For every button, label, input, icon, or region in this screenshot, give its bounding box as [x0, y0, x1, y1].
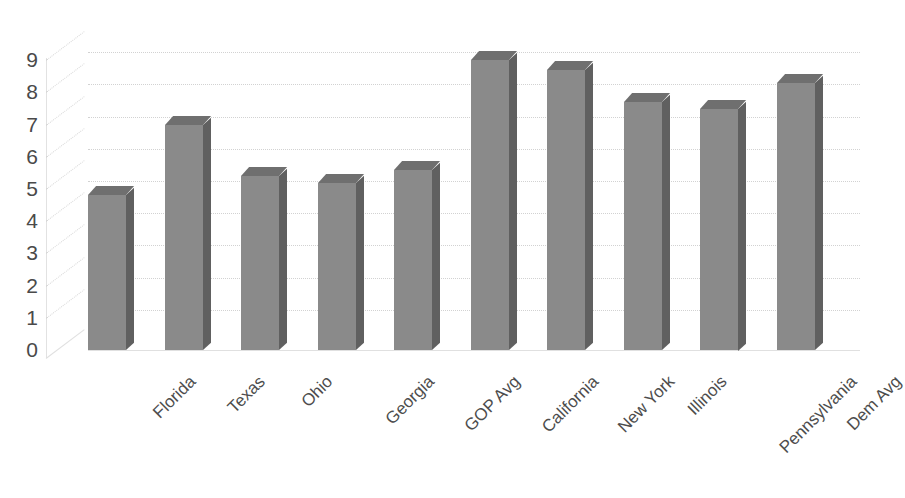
x-axis-label-ohio: Ohio — [298, 372, 338, 412]
y-axis-tick-label: 8 — [0, 81, 38, 102]
y-axis-tick-label: 9 — [0, 49, 38, 70]
bar-texas — [165, 125, 203, 350]
x-axis-baseline — [88, 350, 860, 351]
y-axis-tick-label: 5 — [0, 178, 38, 199]
bar-dem-avg — [777, 83, 815, 350]
gridline-depth-riser — [46, 31, 85, 61]
x-axis-label-georgia: Georgia — [381, 372, 438, 429]
bar-ohio — [241, 176, 279, 350]
x-axis-label-texas: Texas — [224, 372, 270, 418]
x-axis-label-illinois: Illinois — [683, 372, 731, 420]
y-axis-tick-label: 7 — [0, 114, 38, 135]
bar-illinois — [624, 102, 662, 350]
gridline-depth-riser — [46, 257, 85, 287]
y-axis-tick-label: 3 — [0, 242, 38, 263]
bar-side-face — [356, 175, 364, 350]
y-axis-tick-label: 0 — [0, 339, 38, 360]
bar-side-face — [738, 101, 746, 350]
bar-georgia — [318, 183, 356, 350]
bar-side-face — [203, 117, 211, 350]
bar-side-face — [815, 76, 823, 350]
y-axis-tick-label: 1 — [0, 307, 38, 328]
y-axis-tick-label: 4 — [0, 210, 38, 231]
y-axis-tick-label: 2 — [0, 275, 38, 296]
x-axis-label-florida: Florida — [149, 372, 200, 423]
gridline-depth-riser — [46, 64, 85, 94]
x-axis-label-gop-avg: GOP Avg — [461, 372, 525, 436]
gridline-depth-riser — [46, 128, 85, 158]
bar-side-face — [279, 169, 287, 350]
gridline-depth-riser — [46, 289, 85, 319]
gridline — [88, 52, 860, 53]
bar-side-face — [585, 63, 593, 350]
bar-side-face — [509, 53, 517, 350]
gridline-depth-riser — [46, 160, 85, 190]
bar-side-face — [432, 162, 440, 350]
gridline-depth-riser — [46, 96, 85, 126]
bar-florida — [88, 195, 126, 350]
bar-side-face — [126, 188, 134, 350]
bar-side-face — [662, 95, 670, 350]
gridline-depth-riser — [46, 225, 85, 255]
x-axis-label-new-york: New York — [614, 372, 679, 437]
bar-california — [471, 60, 509, 350]
x-axis-label-california: California — [538, 372, 603, 437]
gridline-depth-riser — [46, 192, 85, 222]
floor-depth-line — [46, 329, 85, 359]
bar-gop-avg — [394, 170, 432, 350]
bar-pennsylvania — [700, 109, 738, 351]
y-axis-tick-label: 6 — [0, 146, 38, 167]
bar-new-york — [547, 70, 585, 350]
y-axis-line — [46, 58, 47, 358]
